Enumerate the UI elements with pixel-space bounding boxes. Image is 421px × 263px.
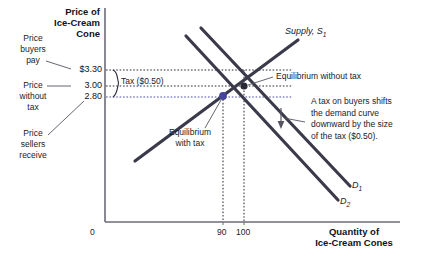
note-sellers-line-3: receive [6,150,60,161]
note-price-buyers-pay: Price buyers pay [6,33,60,66]
price-label-sellers-receive: 2.80 [58,91,102,101]
note-price-without-tax: Price without tax [6,80,60,113]
tax-bracket [113,70,119,97]
note-without-line-1: Price [6,80,60,91]
note-without-line-3: tax [6,102,60,113]
supply-curve-label: Supply, S1 [285,26,326,38]
price-label-buyers-pay: $3.30 [58,64,102,74]
note-price-sellers-receive: Price sellers receive [6,128,60,161]
tax-incidence-diagram: Price of Ice-Cream Cone Price buyers pay… [0,0,421,263]
equilibrium-without-tax-label: Equilibrium without tax [276,71,361,81]
demand-shift-arrow-head [278,121,285,129]
y-axis-title-line-2: Ice-Cream [38,17,100,28]
tax-shift-line-3: downward by the size [311,119,419,131]
note-sellers-line-1: Price [6,128,60,139]
x-axis-title-line-1: Quantity of [296,226,412,237]
note-sellers-line-2: sellers [6,139,60,150]
tax-bracket-label: Tax ($0.50) [121,76,164,86]
demand-curve-d2-label: D2 [340,196,350,208]
xtick-label-90: 90 [217,227,226,237]
price-label-without-tax: 3.00 [58,80,102,90]
demand-d2-sub: 2 [347,201,351,208]
equilibrium-point-without-tax [240,82,247,89]
origin-label: 0 [90,227,95,237]
supply-curve-label-sub: 1 [323,31,327,38]
equilibrium-point-with-tax [219,92,227,100]
tax-shift-line-4: of the tax ($0.50). [311,131,419,143]
tax-shift-line-1: A tax on buyers shifts [311,96,419,108]
note-buyers-line-2: buyers [6,44,60,55]
xtick-label-100: 100 [236,227,250,237]
demand-curve-d1-label: D1 [352,180,362,192]
supply-curve-label-text: Supply, S [285,26,323,36]
equilibrium-with-tax-label: Equilibrium with tax [160,127,220,149]
tax-shift-annotation: A tax on buyers shifts the demand curve … [311,96,419,142]
equilibrium-with-tax-line-2: with tax [160,138,220,149]
x-axis-title: Quantity of Ice-Cream Cones [296,226,412,248]
y-axis-title-line-1: Price of [38,6,100,17]
x-axis-title-line-2: Ice-Cream Cones [296,237,412,248]
demand-d1-sub: 1 [359,185,363,192]
note-buyers-line-1: Price [6,33,60,44]
note-without-line-2: without [6,91,60,102]
equilibrium-with-tax-line-1: Equilibrium [160,127,220,138]
tax-shift-line-2: the demand curve [311,108,419,120]
note-buyers-line-3: pay [6,55,60,66]
